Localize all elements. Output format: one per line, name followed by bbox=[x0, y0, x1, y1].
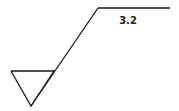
surface-roughness-symbol bbox=[0, 0, 179, 111]
roughness-value-label: 3.2 bbox=[112, 15, 144, 26]
roughness-triangle-icon bbox=[11, 71, 54, 106]
symbol-long-leg bbox=[31, 8, 98, 106]
